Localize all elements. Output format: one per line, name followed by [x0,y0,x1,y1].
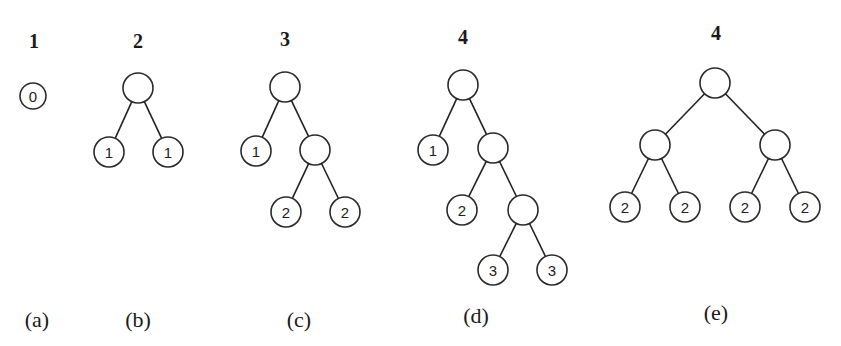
leaf-node: 1 [418,135,448,165]
internal-node [760,130,790,160]
panel-e: 42222(e) [610,22,820,325]
panel-caption: (a) [25,307,49,332]
node-circle-icon [700,68,730,98]
leaf-node: 1 [241,136,271,166]
tree-edge [115,102,132,139]
tree-edge [662,159,679,194]
node-circle-icon [123,73,153,103]
node-circle-icon [508,195,538,225]
leaf-node: 2 [670,192,700,222]
tree-edge [469,99,486,135]
node-depth-label: 3 [548,262,556,279]
leaf-node: 2 [330,197,360,227]
node-depth-label: 2 [741,199,749,216]
node-depth-label: 3 [489,262,497,279]
tree-edge [262,101,279,138]
tree-edge [725,94,764,134]
leaf-node: 3 [537,255,567,285]
node-depth-label: 2 [621,199,629,216]
node-depth-label: 2 [681,199,689,216]
node-depth-label: 2 [341,204,349,221]
internal-node [700,68,730,98]
leaf-node: 2 [730,192,760,222]
tree-edge [752,159,769,194]
internal-node [270,72,300,102]
panel-caption: (c) [287,307,311,332]
node-depth-label: 0 [29,88,37,105]
internal-node [448,70,478,100]
tree-edge [530,224,546,257]
panel-d: 41233(d) [418,26,567,328]
leaf-node: 2 [790,192,820,222]
internal-node [123,73,153,103]
panel-caption: (e) [704,300,728,325]
tree-edge [439,99,456,137]
tree-edge [292,164,308,199]
panel-title: 4 [711,22,721,44]
tree-edge [144,102,161,139]
leaf-node: 3 [478,255,508,285]
node-depth-label: 1 [252,143,260,160]
tree-edge [469,161,487,196]
leaf-node: 1 [94,137,124,167]
internal-node [478,133,508,163]
tree-edge [291,101,308,137]
node-depth-label: 1 [429,142,437,159]
internal-node [640,130,670,160]
node-depth-label: 2 [801,199,809,216]
node-depth-label: 1 [105,144,113,161]
tree-edge [322,164,339,199]
tree-edge [782,159,799,194]
internal-node [508,195,538,225]
node-circle-icon [478,133,508,163]
tree-panels: 10(a)211(b)3122(c)41233(d)42222(e) [20,22,820,332]
leaf-node: 1 [153,137,183,167]
panel-title: 1 [29,30,39,52]
node-depth-label: 1 [164,144,172,161]
leaf-node: 0 [20,83,46,109]
leaf-node: 2 [271,197,301,227]
panel-b: 211(b) [94,30,183,332]
node-circle-icon [640,130,670,160]
tree-edge [500,162,517,197]
tree-edge [632,159,649,194]
node-circle-icon [448,70,478,100]
node-depth-label: 2 [458,202,466,219]
leaf-node: 2 [610,192,640,222]
tree-diagram-figure: 10(a)211(b)3122(c)41233(d)42222(e) [0,0,841,346]
panel-c: 3122(c) [241,28,360,332]
panel-a: 10(a) [20,30,49,332]
node-depth-label: 2 [282,204,290,221]
node-circle-icon [270,72,300,102]
node-circle-icon [760,130,790,160]
leaf-node: 2 [447,195,477,225]
internal-node [300,135,330,165]
tree-edge [500,223,517,256]
panel-title: 4 [458,26,468,48]
panel-title: 2 [133,30,143,52]
panel-title: 3 [280,28,290,50]
panel-caption: (b) [125,307,151,332]
panel-caption: (d) [463,303,489,328]
tree-edge [665,94,704,134]
node-circle-icon [300,135,330,165]
